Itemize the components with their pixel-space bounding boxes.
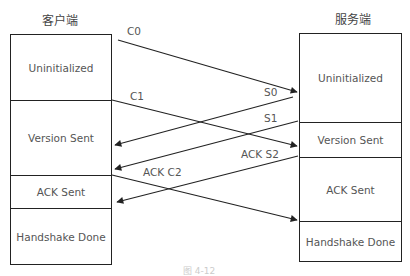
arrow-s1 <box>115 121 298 169</box>
arrow-ack-s2 <box>117 156 298 202</box>
label-c0: C0 <box>127 25 141 37</box>
message-arrows <box>0 0 410 276</box>
label-ack-s2: ACK S2 <box>241 148 279 160</box>
arrow-c0 <box>118 40 297 92</box>
label-ack-c2: ACK C2 <box>143 166 182 178</box>
label-s1: S1 <box>264 112 277 124</box>
figure-caption: 图 4-12 <box>183 264 215 276</box>
label-s0: S0 <box>264 86 277 98</box>
label-c1: C1 <box>130 90 144 102</box>
arrow-ack-c2 <box>112 175 297 220</box>
